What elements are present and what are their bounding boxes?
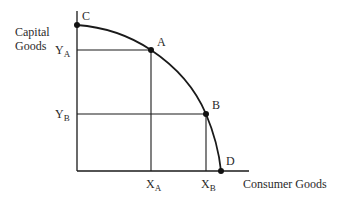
ppf-curve bbox=[77, 25, 221, 171]
y-tick-yb-main: Y bbox=[55, 107, 64, 121]
x-tick-xa: XA bbox=[146, 178, 161, 195]
point-d bbox=[218, 168, 224, 174]
point-a bbox=[148, 47, 154, 53]
y-tick-ya-main: Y bbox=[55, 43, 64, 57]
y-tick-yb-sub: B bbox=[64, 113, 70, 123]
y-axis-label-line1: Capital bbox=[15, 26, 50, 39]
point-b bbox=[203, 111, 209, 117]
y-tick-ya: YA bbox=[55, 44, 70, 61]
point-a-label: A bbox=[157, 36, 166, 49]
point-c-label: C bbox=[82, 10, 90, 23]
x-tick-xb-main: X bbox=[201, 177, 210, 191]
y-tick-yb: YB bbox=[55, 108, 70, 125]
y-tick-ya-sub: A bbox=[64, 49, 71, 59]
x-axis-label: Consumer Goods bbox=[243, 178, 327, 191]
point-d-label: D bbox=[226, 155, 235, 168]
x-tick-xb: XB bbox=[201, 178, 216, 195]
x-tick-xa-sub: A bbox=[155, 183, 162, 193]
x-tick-xa-main: X bbox=[146, 177, 155, 191]
ppf-diagram bbox=[0, 0, 342, 198]
point-b-label: B bbox=[212, 99, 220, 112]
x-tick-xb-sub: B bbox=[210, 183, 216, 193]
point-c bbox=[74, 22, 80, 28]
y-axis-label-line2: Goods bbox=[15, 40, 46, 53]
